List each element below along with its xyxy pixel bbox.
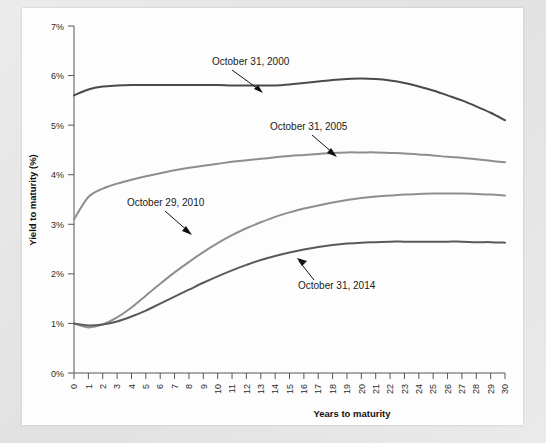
x-tick-label: 22 [385,384,395,394]
yield-curve-chart: 0%1%2%3%4%5%6%7% 01234567891011121314151… [22,8,523,425]
series-line-1 [74,152,505,219]
annotation-2005-label: October 31, 2005 [270,121,348,132]
annotation-2014-arrowhead [297,258,307,266]
x-tick-label: 20 [357,384,367,394]
annotation-2010-label: October 29, 2010 [127,197,205,208]
x-tick-label: 13 [256,384,266,394]
y-tick-label: 0% [51,369,64,379]
x-tick-label: 3 [112,384,122,389]
series-line-2 [74,194,505,328]
x-tick-label: 14 [270,384,280,394]
x-tick-label: 27 [457,384,467,394]
x-tick-label: 4 [127,384,137,389]
y-tick-label: 7% [51,22,64,32]
x-tick-label: 19 [342,384,352,394]
x-tick-label: 29 [486,384,496,394]
annotation-2010: October 29, 2010 [127,197,205,235]
x-tick-label: 26 [443,384,453,394]
x-tick-label: 17 [313,384,323,394]
x-tick-label: 24 [414,384,424,394]
chart-card: 0%1%2%3%4%5%6%7% 01234567891011121314151… [22,8,523,425]
y-tick-label: 4% [51,170,64,180]
x-tick-label: 6 [155,384,165,389]
x-tick-label: 30 [500,384,510,394]
y-tick-label: 1% [51,319,64,329]
annotation-2000: October 31, 2000 [212,56,290,93]
x-axis-title: Years to maturity [313,408,391,419]
y-axis-title: Yield to maturity (%) [27,154,38,246]
y-tick-label: 2% [51,269,64,279]
x-tick-label: 2 [98,384,108,389]
x-tick-label: 16 [299,384,309,394]
annotation-2005: October 31, 2005 [270,121,348,157]
y-tick-label: 6% [51,71,64,81]
x-tick-label: 23 [400,384,410,394]
x-tick-label: 28 [471,384,481,394]
x-axis: 0123456789101112131415161718192021222324… [69,373,510,394]
series-line-0 [74,79,505,121]
x-tick-label: 5 [141,384,151,389]
x-tick-label: 0 [69,384,79,389]
y-axis: 0%1%2%3%4%5%6%7% [51,22,74,379]
x-tick-label: 25 [428,384,438,394]
x-tick-label: 11 [227,384,237,393]
x-tick-label: 12 [242,384,252,394]
annotation-2014-label: October 31, 2014 [298,280,376,291]
annotation-2000-label: October 31, 2000 [212,56,290,67]
y-tick-label: 3% [51,220,64,230]
x-tick-label: 15 [285,384,295,394]
x-tick-label: 9 [199,384,209,389]
y-tick-label: 5% [51,121,64,131]
x-tick-label: 21 [371,384,381,394]
x-tick-label: 10 [213,384,223,394]
x-tick-label: 18 [328,384,338,394]
annotation-2014: October 31, 2014 [297,258,376,291]
x-tick-label: 1 [84,384,94,389]
x-tick-label: 8 [184,384,194,389]
x-tick-label: 7 [170,384,180,389]
series-line-3 [74,242,505,326]
